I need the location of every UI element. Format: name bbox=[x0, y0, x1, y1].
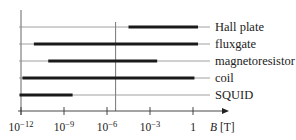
sensor-row-magnetoresistor: magnetoresistor bbox=[19, 54, 296, 68]
sensor-label: Hall plate bbox=[215, 20, 264, 34]
x-tick-label: 10−12 bbox=[9, 119, 34, 133]
sensor-label: coil bbox=[215, 71, 234, 85]
sensor-row-squid: SQUID bbox=[19, 88, 253, 102]
axis-arrow-icon bbox=[222, 108, 229, 114]
sensor-row-coil: coil bbox=[19, 71, 234, 85]
sensor-label: SQUID bbox=[215, 88, 253, 102]
x-tick-label: 10−6 bbox=[97, 119, 118, 133]
x-tick-label: 1 bbox=[190, 121, 196, 133]
sensor-row-fluxgate: fluxgate bbox=[19, 37, 256, 51]
x-axis-title: B [T] bbox=[210, 121, 235, 133]
sensor-label: magnetoresistor bbox=[215, 54, 296, 68]
sensor-row-hall-plate: Hall plate bbox=[19, 20, 264, 34]
x-tick-label: 10−3 bbox=[140, 119, 161, 133]
sensor-label: fluxgate bbox=[215, 37, 256, 51]
sensor-range-chart: Hall platefluxgatemagnetoresistorcoilSQU… bbox=[0, 0, 296, 140]
sensor-rows: Hall platefluxgatemagnetoresistorcoilSQU… bbox=[19, 20, 296, 102]
x-tick-label: 10−9 bbox=[54, 119, 75, 133]
x-axis: 10−1210−910−610−31B [T] bbox=[9, 107, 235, 133]
